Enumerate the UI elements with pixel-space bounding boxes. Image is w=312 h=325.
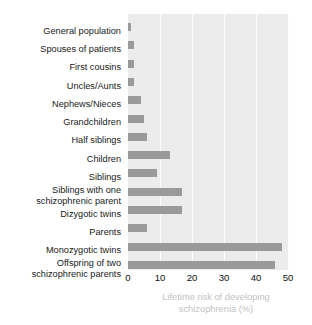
- gridline: [192, 14, 193, 270]
- category-label: Spouses of patients: [0, 44, 121, 54]
- bar: [128, 115, 144, 123]
- value-axis: 01020304050: [128, 272, 288, 286]
- bar: [128, 261, 275, 269]
- bar: [128, 78, 134, 86]
- category-label: Dizygotic twins: [0, 209, 121, 219]
- category-label: Siblings with one schizophrenic parent: [0, 185, 121, 206]
- bar: [128, 206, 182, 214]
- category-label: Nephews/Nieces: [0, 99, 121, 109]
- schizophrenia-risk-bar-chart: General populationSpouses of patientsFir…: [0, 0, 312, 325]
- category-label: Siblings: [0, 172, 121, 182]
- gridline: [288, 14, 289, 270]
- gridline: [160, 14, 161, 270]
- bar: [128, 60, 134, 68]
- category-label: Monozygotic twins: [0, 245, 121, 255]
- category-label: General population: [0, 26, 121, 36]
- category-axis: General populationSpouses of patientsFir…: [0, 18, 125, 270]
- category-label: First cousins: [0, 62, 121, 72]
- plot-area: [128, 14, 288, 270]
- x-tick-label: 20: [187, 272, 198, 284]
- x-tick-label: 0: [125, 272, 130, 284]
- category-label: Grandchildren: [0, 117, 121, 127]
- bar: [128, 224, 147, 232]
- category-label: Parents: [0, 227, 121, 237]
- bar: [128, 169, 157, 177]
- bar: [128, 243, 282, 251]
- x-tick-label: 40: [251, 272, 262, 284]
- category-label: Offspring of two schizophrenic parents: [0, 258, 121, 279]
- bar: [128, 151, 170, 159]
- category-label: Children: [0, 154, 121, 164]
- x-tick-label: 10: [155, 272, 166, 284]
- bar: [128, 96, 141, 104]
- category-label: Uncles/Aunts: [0, 81, 121, 91]
- gridline: [256, 14, 257, 270]
- x-axis-title: Lifetime risk of developing schizophreni…: [128, 292, 304, 315]
- bar: [128, 133, 147, 141]
- x-tick-label: 50: [283, 272, 294, 284]
- x-tick-label: 30: [219, 272, 230, 284]
- gridline: [224, 14, 225, 270]
- bar: [128, 23, 131, 31]
- bar: [128, 188, 182, 196]
- bar: [128, 41, 134, 49]
- category-label: Half siblings: [0, 135, 121, 145]
